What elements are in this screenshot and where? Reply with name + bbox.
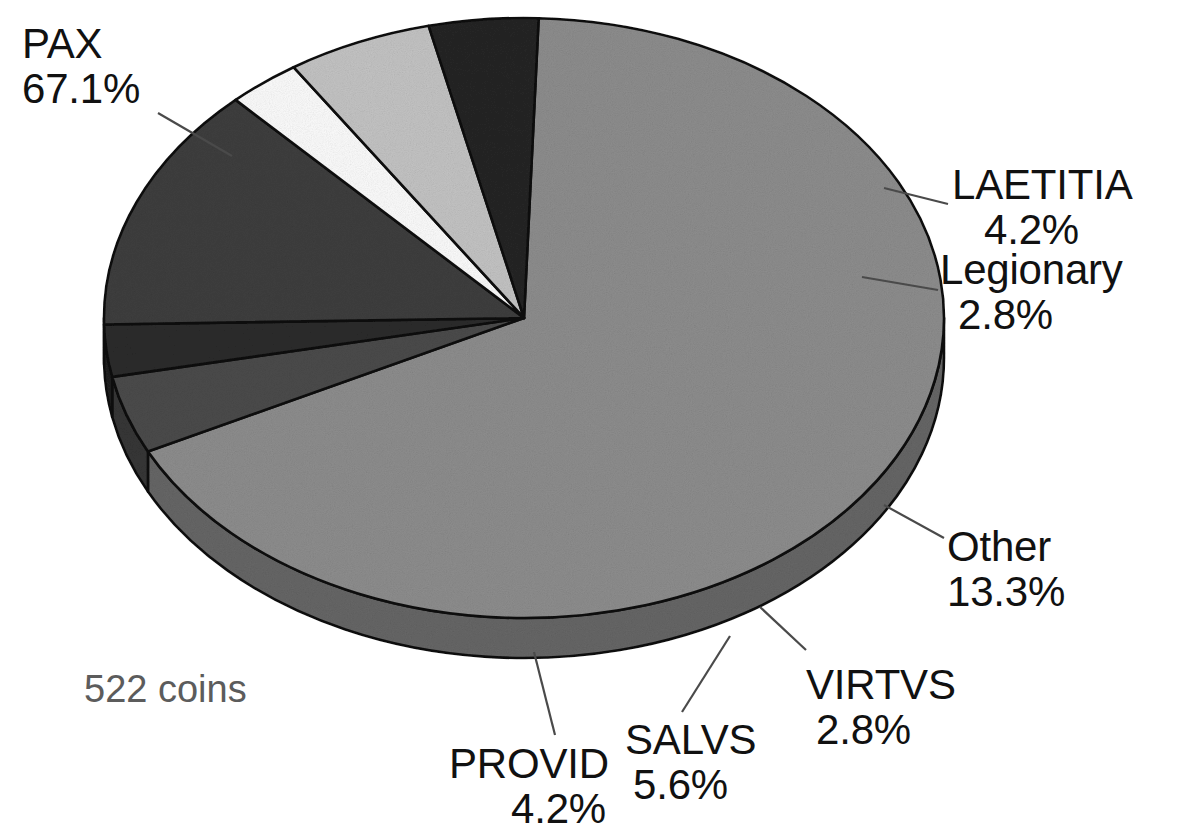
slice-label-pax-percent: 67.1% bbox=[22, 67, 140, 112]
leader-line-provid bbox=[534, 652, 555, 735]
pie-chart-graphic bbox=[0, 0, 1197, 840]
slice-label-provid-name: PROVID bbox=[449, 742, 609, 787]
total-coins-caption: 522 coins bbox=[84, 668, 247, 711]
slice-label-pax-name: PAX bbox=[22, 22, 140, 67]
slice-label-other-name: Other bbox=[947, 525, 1065, 570]
slice-label-legionary-name: Legionary bbox=[940, 248, 1123, 293]
pie-body bbox=[104, 18, 944, 658]
slice-label-virtvs: VIRTVS 2.8% bbox=[806, 663, 956, 753]
slice-label-other: Other 13.3% bbox=[947, 525, 1065, 615]
pie-top-faces bbox=[104, 18, 944, 618]
leader-line-virtvs bbox=[760, 607, 806, 650]
slice-label-salvs-name: SALVS bbox=[625, 718, 756, 763]
pie-chart-figure: PAX 67.1% LAETITIA 4.2% Legionary 2.8% O… bbox=[0, 0, 1197, 840]
slice-label-salvs-percent: 5.6% bbox=[633, 763, 756, 808]
slice-label-other-percent: 13.3% bbox=[947, 570, 1065, 615]
slice-label-pax: PAX 67.1% bbox=[22, 22, 140, 112]
slice-label-provid: PROVID 4.2% bbox=[449, 742, 609, 832]
leader-line-salvs bbox=[682, 636, 730, 712]
slice-label-salvs: SALVS 5.6% bbox=[625, 718, 756, 808]
slice-label-laetitia: LAETITIA 4.2% bbox=[952, 163, 1132, 253]
slice-label-virtvs-name: VIRTVS bbox=[806, 663, 956, 708]
leader-line-other bbox=[884, 505, 944, 538]
slice-label-legionary-percent: 2.8% bbox=[958, 293, 1123, 338]
slice-label-virtvs-percent: 2.8% bbox=[816, 708, 956, 753]
slice-label-provid-percent: 4.2% bbox=[511, 787, 609, 832]
slice-label-legionary: Legionary 2.8% bbox=[940, 248, 1123, 338]
slice-label-laetitia-name: LAETITIA bbox=[952, 163, 1132, 208]
